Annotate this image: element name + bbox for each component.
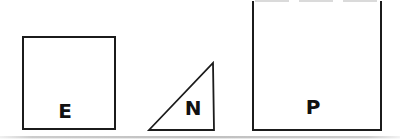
geometry-figure: E N P [0, 0, 400, 140]
triangle-n-label: N [185, 96, 202, 120]
square-e-label: E [58, 99, 72, 123]
figure-svg: E N P [0, 0, 400, 140]
square-p-label: P [306, 95, 321, 119]
triangle-n-shape [149, 63, 214, 130]
bottom-scan-artifact-line [0, 136, 400, 138]
